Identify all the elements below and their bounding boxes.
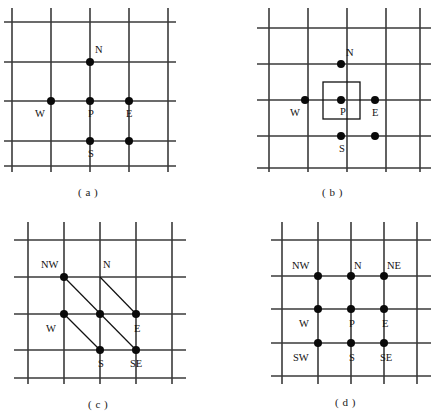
label-nw: NW [292,260,310,271]
label-e: E [372,107,378,118]
label-n: N [95,44,103,55]
panel-c: NW N W E S SE ( c ) [0,212,217,390]
node-dot-w [47,97,55,105]
node-dot-se [132,346,140,354]
node-dot-s [337,132,345,140]
panel-d-diagram: NW N NE W P E SW S SE [217,212,434,390]
label-e: E [134,323,140,334]
node-dot-ne [380,272,388,280]
panel-d-caption: ( d ) [335,396,356,408]
node-dot-p [86,97,94,105]
label-s: S [88,148,94,159]
label-w: W [35,108,45,119]
node-dot-w [60,310,68,318]
label-p: P [88,108,94,119]
label-nw: NW [41,259,59,270]
node-dot-nw [60,273,68,281]
node-dot-se [371,132,379,140]
node-dot-sw [314,339,322,347]
panel-c-diagram: NW N W E S SE [0,212,217,390]
label-w: W [46,323,56,334]
node-dot-p [96,310,104,318]
diagonal-n-e [100,277,136,314]
label-w: W [299,318,309,329]
node-dot-n [86,58,94,66]
node-dot-p [337,96,345,104]
node-dot-w [301,96,309,104]
node-dot-p [347,305,355,313]
label-ne: NE [387,260,401,271]
label-p: P [349,318,355,329]
node-dot-se [380,339,388,347]
figure-sheet: N W P E S ( a ) [0,0,434,420]
label-n: N [103,259,111,270]
node-dot-w [314,305,322,313]
node-dot-nw [314,272,322,280]
label-se: SE [380,352,392,363]
label-n: N [354,260,362,271]
panel-b-caption: ( b ) [322,186,343,198]
panel-a-diagram: N W P E S [0,0,217,180]
label-e: E [382,318,388,329]
node-dot-n [337,60,345,68]
label-p: P [340,106,346,117]
label-se: SE [130,358,142,369]
panel-a: N W P E S ( a ) [0,0,217,180]
panel-b-diagram: N W P E S [217,0,434,180]
node-dot-e [132,310,140,318]
node-dot-n [347,272,355,280]
label-sw: SW [293,352,309,363]
label-s: S [339,143,345,154]
panel-d: NW N NE W P E SW S SE ( d ) [217,212,434,390]
node-dot-se [125,137,133,145]
node-dot-e [125,97,133,105]
panel-c-caption: ( c ) [88,398,108,410]
panel-a-caption: ( a ) [78,186,98,198]
node-dot-s [86,137,94,145]
node-dot-s [96,346,104,354]
label-s: S [349,352,355,363]
label-w: W [290,107,300,118]
diagonal-w-s [64,314,100,350]
label-s: S [98,358,104,369]
label-e: E [126,108,132,119]
node-dot-e [380,305,388,313]
node-dot-s [347,339,355,347]
panel-b: N W P E S ( b ) [217,0,434,180]
label-n: N [346,47,354,58]
node-dot-e [371,96,379,104]
